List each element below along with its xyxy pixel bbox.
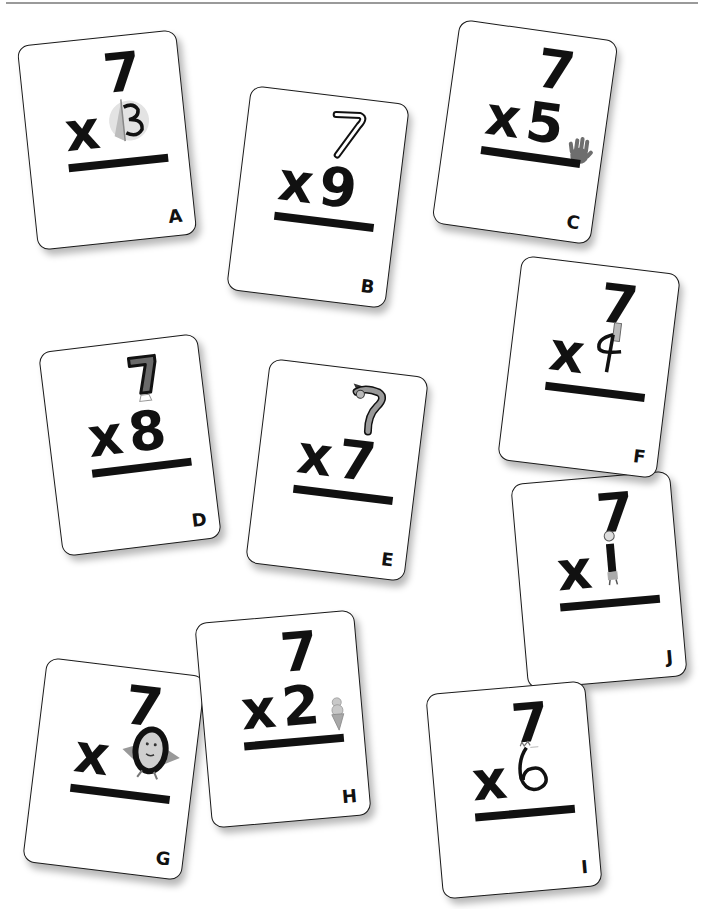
flash-card-f[interactable]: 7 x F xyxy=(497,255,681,479)
multiply-sign: x xyxy=(555,543,594,600)
flash-card-g[interactable]: 7 x G xyxy=(22,657,206,881)
card-multiplier-row: x 7 xyxy=(294,425,379,490)
card-multiplier: 8 xyxy=(125,403,169,461)
flash-card-h[interactable]: 7 x 2 H xyxy=(194,609,371,828)
ice-cream-cone-icon xyxy=(328,686,347,721)
flash-card-a[interactable]: 7 x A xyxy=(17,29,198,251)
card-multiplier-row: x xyxy=(555,538,630,600)
card-multiplier-row: x 8 xyxy=(84,401,169,466)
card-multiplier: 2 xyxy=(280,678,322,735)
flash-card-d[interactable]: x 8 D xyxy=(38,333,222,557)
sailboat-three-icon xyxy=(102,92,158,156)
top-divider-line xyxy=(6,2,698,4)
cat-six-icon xyxy=(510,738,556,806)
card-letter: C xyxy=(565,213,581,233)
card-multiplier-row: x xyxy=(62,95,158,160)
multiply-sign: x xyxy=(546,324,587,382)
card-letter: E xyxy=(380,550,394,569)
multiply-sign: x xyxy=(275,154,316,212)
egg-hero-zero-icon xyxy=(112,720,189,793)
card-letter: H xyxy=(341,787,358,806)
multiply-sign: x xyxy=(62,103,102,160)
card-top-number: 7 xyxy=(427,691,589,759)
card-top-number: 7 xyxy=(512,481,674,549)
card-letter: F xyxy=(632,447,646,466)
card-multiplier: 7 xyxy=(335,432,379,490)
standing-figure-one-icon xyxy=(595,529,631,596)
card-multiplier-row: x 9 xyxy=(275,152,360,217)
multiply-sign: x xyxy=(482,89,524,147)
card-multiplier-row: x 2 xyxy=(239,674,348,739)
multiply-sign: x xyxy=(85,408,126,466)
answer-line xyxy=(545,382,645,402)
card-multiplier: 5 xyxy=(523,94,568,153)
card-multiplier: 9 xyxy=(316,159,360,217)
flash-card-j[interactable]: 7 x J xyxy=(510,470,687,689)
card-multiplier-row: x xyxy=(71,724,188,793)
card-multiplier-row: x xyxy=(546,322,627,387)
card-letter: D xyxy=(191,510,208,530)
card-letter: I xyxy=(581,858,589,877)
card-letter: J xyxy=(666,648,674,667)
multiply-sign: x xyxy=(470,753,509,810)
hand-icon xyxy=(567,118,601,152)
card-letter: B xyxy=(360,277,376,297)
card-multiplier-row: x xyxy=(470,747,555,810)
card-letter: G xyxy=(155,849,172,869)
multiply-sign: x xyxy=(71,726,112,784)
multiply-sign: x xyxy=(239,682,278,739)
multiply-sign: x xyxy=(294,427,335,485)
flash-card-e[interactable]: x 7 E xyxy=(245,358,429,582)
flash-card-i[interactable]: 7 x I xyxy=(425,680,602,899)
four-with-figure-icon xyxy=(587,318,629,387)
card-letter: A xyxy=(168,207,184,226)
flash-card-c[interactable]: 7 x 5 C xyxy=(431,19,618,245)
flash-card-b[interactable]: x 9 B xyxy=(226,85,410,309)
